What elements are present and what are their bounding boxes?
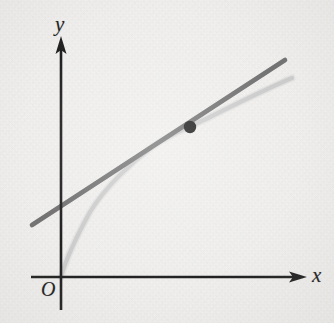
function-curve-halo [61, 78, 292, 277]
figure-canvas: y x O [0, 0, 334, 323]
origin-label: O [41, 279, 55, 299]
tangency-point [184, 121, 196, 133]
y-axis-label: y [55, 14, 64, 35]
plot-area [0, 0, 334, 323]
function-curve [61, 78, 292, 277]
x-axis-label: x [312, 265, 321, 286]
tangent-line [32, 60, 285, 225]
